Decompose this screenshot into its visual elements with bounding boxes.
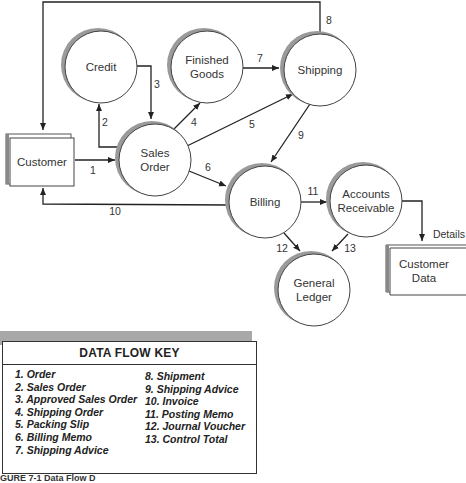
datastore-customer-data: Customer Data: [386, 245, 466, 295]
key-item: 5. Packing Slip: [15, 418, 145, 431]
svg-text:Credit: Credit: [86, 61, 117, 73]
process-sales-order: Sales Order: [115, 121, 191, 196]
key-item: 3. Approved Sales Order: [15, 393, 145, 406]
key-item: 9. Shipping Advice: [145, 383, 245, 396]
key-box: DATA FLOW KEY 1. Order 2. Sales Order 3.…: [2, 341, 257, 474]
key-left-column: 1. Order 2. Sales Order 3. Approved Sale…: [15, 368, 145, 456]
key-item: 11. Posting Memo: [145, 408, 245, 421]
flow-12-label: 12: [276, 242, 288, 254]
key-item: 10. Invoice: [145, 395, 245, 408]
svg-text:Ledger: Ledger: [296, 291, 332, 303]
svg-text:Customer: Customer: [17, 156, 67, 168]
key-title: DATA FLOW KEY: [3, 342, 256, 365]
flow-10-label: 10: [109, 205, 121, 217]
flow-3-line: [135, 66, 151, 119]
svg-text:Finished: Finished: [185, 54, 228, 66]
data-flow-key: DATA FLOW KEY 1. Order 2. Sales Order 3.…: [0, 331, 260, 476]
svg-text:Data: Data: [412, 272, 437, 284]
key-item: 7. Shipping Advice: [15, 444, 145, 457]
process-finished-goods: Finished Goods: [167, 28, 243, 103]
flow-9-label: 9: [298, 129, 304, 141]
flow-6-line: [189, 171, 226, 186]
key-item: 1. Order: [15, 368, 145, 381]
svg-text:Goods: Goods: [190, 68, 224, 80]
process-billing: Billing: [225, 163, 301, 238]
flow-1-label: 1: [90, 164, 96, 176]
flow-2-label: 2: [102, 116, 108, 128]
svg-text:Shipping: Shipping: [298, 64, 343, 76]
key-right-column: 8. Shipment 9. Shipping Advice 10. Invoi…: [145, 368, 245, 456]
svg-text:Order: Order: [140, 161, 170, 173]
flow-details-line: [400, 201, 422, 241]
flow-11-label: 11: [308, 185, 319, 197]
flow-6-label: 6: [205, 161, 211, 173]
flow-8-label: 8: [326, 14, 332, 26]
key-item: 6. Billing Memo: [15, 431, 145, 444]
flow-13-label: 13: [344, 242, 356, 254]
svg-text:Customer: Customer: [399, 258, 449, 270]
process-credit: Credit: [61, 28, 137, 103]
flow-3-label: 3: [154, 78, 160, 90]
flow-4-label: 4: [191, 116, 197, 128]
entity-customer: Customer: [6, 134, 74, 186]
key-item: 12. Journal Voucher: [145, 420, 245, 433]
key-item: 8. Shipment: [145, 370, 245, 383]
flow-details-label: Details: [433, 228, 465, 240]
key-item: 2. Sales Order: [15, 381, 145, 394]
svg-text:Receivable: Receivable: [338, 202, 395, 214]
svg-text:Billing: Billing: [250, 196, 281, 208]
svg-text:Accounts: Accounts: [342, 188, 390, 200]
process-accounts-receivable: Accounts Receivable: [326, 162, 402, 237]
flow-7-label: 7: [257, 52, 263, 64]
figure-caption: GURE 7-1 Data Flow D: [0, 473, 96, 483]
process-general-ledger: General Ledger: [274, 251, 350, 326]
flow-9-line: [271, 104, 310, 162]
key-item: 4. Shipping Order: [15, 406, 145, 419]
svg-text:General: General: [294, 277, 335, 289]
flow-5-label: 5: [249, 118, 255, 130]
svg-text:Sales: Sales: [141, 147, 170, 159]
key-item: 13. Control Total: [145, 433, 245, 446]
